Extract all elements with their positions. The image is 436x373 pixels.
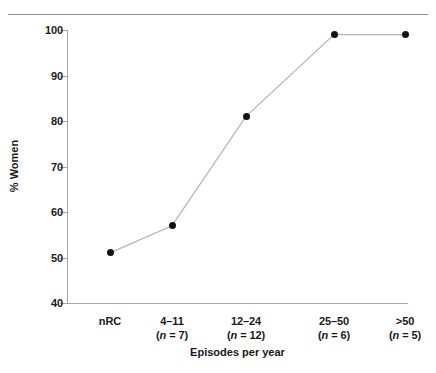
x-tick-label: 4–11(n = 7) (156, 314, 188, 342)
y-tick-label: 80 (51, 115, 63, 127)
x-tick-sublabel: (n = 7) (156, 328, 188, 342)
x-tick-label: 12–24(n = 12) (227, 314, 265, 342)
series-line (67, 30, 408, 303)
data-point (243, 113, 250, 120)
plot-area: 405060708090100 nRC4–11(n = 7)12–24(n = … (67, 30, 408, 303)
figure-panel: % Women Episodes per year 40506070809010… (0, 0, 436, 373)
y-tick-label: 60 (51, 206, 63, 218)
y-tick-label: 100 (45, 24, 63, 36)
data-point (169, 222, 176, 229)
x-tick-label: 25–50(n = 6) (318, 314, 350, 342)
x-axis-title: Episodes per year (67, 346, 408, 358)
y-tick-label: 70 (51, 161, 63, 173)
y-axis-title: % Women (8, 140, 20, 192)
x-tick-sublabel: (n = 6) (318, 328, 350, 342)
data-point (107, 249, 114, 256)
x-tick-sublabel: (n = 5) (389, 328, 421, 342)
data-point (331, 31, 338, 38)
figure-top-rule (8, 14, 428, 15)
x-axis-line (67, 303, 408, 304)
x-tick-label: >50(n = 5) (389, 314, 421, 342)
data-point (402, 31, 409, 38)
y-tick-label: 40 (51, 297, 63, 309)
x-tick-sublabel: (n = 12) (227, 328, 265, 342)
y-tick-label: 90 (51, 70, 63, 82)
y-tick-label: 50 (51, 252, 63, 264)
x-tick-label: nRC (99, 314, 121, 328)
